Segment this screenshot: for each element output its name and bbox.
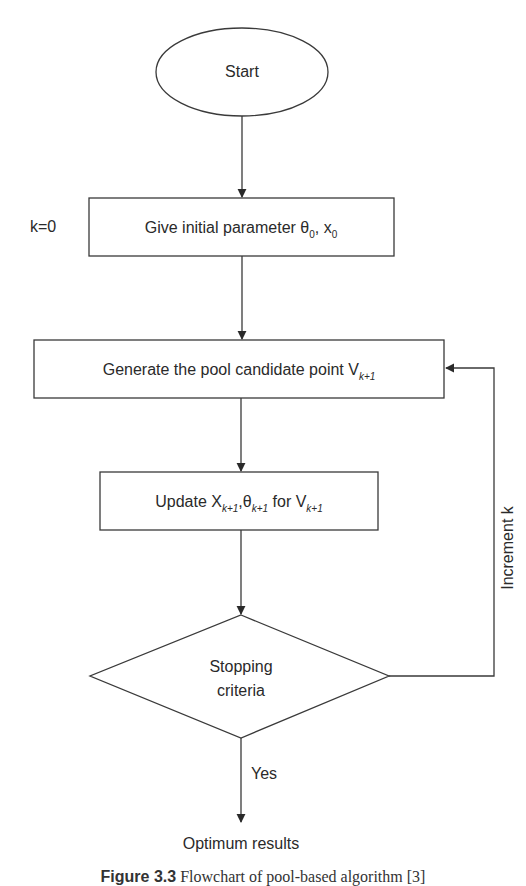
generate-sub: k+1 <box>359 371 375 382</box>
caption-text: Flowchart of pool-based algorithm [3] <box>176 868 425 885</box>
generate-label: Generate the pool candidate point V <box>103 361 359 378</box>
update-sub-x: k+1 <box>222 503 238 514</box>
update-sub-v: k+1 <box>306 503 322 514</box>
update-sub-theta: k+1 <box>252 503 268 514</box>
end-label: Optimum results <box>183 835 299 852</box>
decision-node: Stopping criteria <box>209 655 272 703</box>
decision-label-line1: Stopping <box>209 655 272 679</box>
init-sub-x: 0 <box>332 229 338 240</box>
arrow-loop-increment <box>389 368 494 676</box>
update-label-theta: ,θ <box>238 493 251 510</box>
init-node: Give initial parameter θ0, x0 <box>145 220 338 236</box>
init-label: Give initial parameter θ <box>145 219 310 236</box>
decision-label-line2: criteria <box>209 679 272 703</box>
figure-caption: Figure 3.3 Flowchart of pool-based algor… <box>0 868 526 886</box>
start-node: Start <box>225 64 259 80</box>
update-node: Update Xk+1,θk+1 for Vk+1 <box>155 494 323 510</box>
generate-node: Generate the pool candidate point Vk+1 <box>103 362 376 378</box>
start-label: Start <box>225 63 259 80</box>
update-label-v: for V <box>268 493 306 510</box>
init-label-x: , x <box>315 219 332 236</box>
caption-prefix: Figure 3.3 <box>101 868 177 885</box>
k-init-label: k=0 <box>30 219 56 235</box>
loop-label: Increment k <box>500 506 516 590</box>
end-node: Optimum results <box>183 836 299 852</box>
update-label-x: Update X <box>155 493 222 510</box>
yes-label: Yes <box>251 766 277 782</box>
